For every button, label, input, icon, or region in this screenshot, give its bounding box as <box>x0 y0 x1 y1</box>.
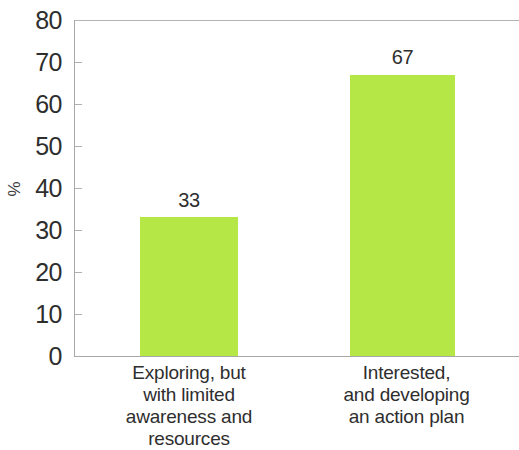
bar-value-label: 33 <box>140 190 238 210</box>
category-label-line: Exploring, but <box>74 362 304 384</box>
y-axis-tick-labels: 80 70 60 50 40 30 20 10 0 <box>0 0 68 450</box>
bars-layer <box>74 20 519 356</box>
y-tick-label: 0 <box>0 344 68 369</box>
category-label-line: resources <box>74 428 304 450</box>
y-tick-label: 30 <box>0 218 68 243</box>
y-tick-label: 60 <box>0 92 68 117</box>
category-label-line: an action plan <box>294 406 519 428</box>
category-label-line: with limited <box>74 384 304 406</box>
category-label-interested: Interested, and developing an action pla… <box>294 362 519 428</box>
y-tick-label: 70 <box>0 50 68 75</box>
x-axis-category-labels: Exploring, but with limited awareness an… <box>74 362 519 450</box>
bar-value-label: 67 <box>350 47 455 67</box>
y-tick-label: 40 <box>0 176 68 201</box>
category-label-exploring: Exploring, but with limited awareness an… <box>74 362 304 450</box>
category-label-line: Interested, <box>294 362 519 384</box>
category-label-line: awareness and <box>74 406 304 428</box>
bar-interested[interactable] <box>350 75 455 356</box>
bar-chart: % 80 70 60 50 40 30 20 10 0 33 67 Explor… <box>0 0 519 450</box>
y-tick-label: 10 <box>0 302 68 327</box>
x-axis-baseline <box>74 356 519 357</box>
y-tick-label: 80 <box>0 8 68 33</box>
bar-exploring[interactable] <box>140 217 238 356</box>
y-tick-label: 20 <box>0 260 68 285</box>
category-label-line: and developing <box>294 384 519 406</box>
y-tick-label: 50 <box>0 134 68 159</box>
